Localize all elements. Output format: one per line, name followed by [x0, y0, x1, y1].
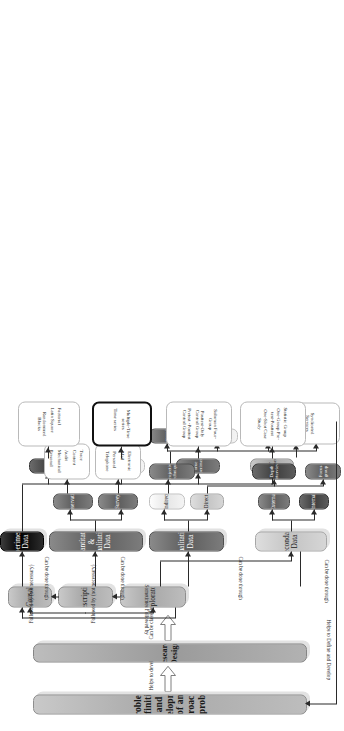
node-secondary-data: Secondary Data — [255, 531, 327, 551]
node-descriptive: Descriptive — [58, 586, 113, 607]
leaf-line: One-Shot Case Study — [257, 407, 268, 440]
node-depth-interview: Depth Interview — [252, 463, 296, 479]
node-research-design: Research Design — [33, 643, 307, 662]
leaf-line: Trace — [79, 450, 84, 461]
node-external-label: External — [271, 493, 277, 509]
leaf-statistical-designs: Factorial Latin Square Randomized Blocks — [18, 401, 80, 446]
node-experimental-data: Experimental Data — [0, 531, 44, 551]
label-sometimes-followed-by: Sometimes Followed by — [144, 584, 150, 634]
leaf-line: Pretest -Posttest Control Group — [181, 407, 192, 440]
node-depth-interview-label: Depth Interview — [269, 463, 280, 479]
leaf-line: Latin Square — [49, 407, 54, 432]
node-indirect-label: Indirect — [164, 493, 170, 509]
label-helps-to-define-and-develop: Helps to Define and Develop — [326, 619, 332, 680]
leaf-line: Statistic Group — [283, 407, 288, 436]
node-exploratory-label: Exploratory — [149, 586, 157, 607]
leaf-pre-experimental-designs: Statistic Group One-Group Pre-test-Postt… — [240, 401, 306, 446]
leaf-line: Personal — [112, 451, 117, 468]
node-experimental-data-label: Experimental Data — [14, 531, 31, 551]
node-qualitative-data-label: Qualitative Data — [178, 531, 195, 551]
label-followed-by-2: Followed by (not necessary) — [28, 564, 34, 623]
leaf-line: Factorial — [56, 407, 61, 424]
leaf-line: Telephone — [104, 451, 109, 471]
leaf-line: Multiple-Time series — [120, 408, 131, 439]
label-can-be-done-through-3: Can be done through — [44, 556, 50, 599]
node-quant-qual-data-label: Quantitative & Qualitative Data — [79, 531, 112, 551]
label-can-be-done-through-2: Can be done through — [120, 556, 126, 599]
node-internal-label: Internal — [311, 493, 317, 509]
arrow-helps-to-develop — [160, 665, 176, 691]
node-research-design-label: Research Design — [160, 643, 179, 662]
node-descriptive-label: Descriptive — [81, 586, 89, 607]
leaf-line: One-Group Pre-test-Posttest — [270, 407, 281, 440]
node-internal: Internal — [299, 493, 329, 509]
node-direct-label: Direct — [204, 494, 210, 507]
node-observation: Observation — [53, 493, 93, 509]
leaf-quasi-experimental-designs: Multiple-Time series Time series — [92, 401, 152, 446]
node-indirect: Indirect — [149, 493, 185, 509]
node-problem-definition: Problem Definition and Development of an… — [33, 694, 307, 714]
node-observation-label: Observation — [70, 493, 76, 509]
leaf-line: Posttest-Only Control Group — [194, 407, 205, 440]
leaf-line: Electronic — [126, 451, 131, 471]
node-survey: Survey — [98, 493, 138, 509]
node-direct: Direct — [190, 493, 224, 509]
leaf-line: Audit — [64, 450, 69, 461]
leaf-line: Randomized Blocks — [36, 407, 47, 440]
node-projective-techniques-label: Projective Techniques — [167, 463, 178, 479]
leaf-line: Mechanical — [57, 450, 62, 473]
leaf-line: Solomon Four-Group — [206, 407, 217, 440]
label-can-be-done-through-1: Can be done through — [238, 556, 244, 599]
leaf-line: Time series — [113, 408, 118, 431]
node-qualitative-data: Qualitative Data — [149, 531, 224, 551]
node-secondary-data-label: Secondary Data — [283, 531, 300, 551]
node-exploratory: Exploratory — [120, 586, 186, 607]
node-problem-definition-label: Problem Definition and Development of an… — [133, 694, 207, 714]
node-projective-techniques: Projective Techniques — [149, 463, 195, 479]
leaf-line: Content — [72, 450, 77, 466]
leaf-true-experimental-designs: Solomon Four-Group Posttest-Only Control… — [166, 401, 232, 446]
node-external: External — [258, 493, 290, 509]
node-focus-group-label: Focus group — [318, 465, 329, 477]
label-can-be-done-through-4: Can be done through — [324, 559, 330, 602]
node-quant-qual-data: Quantitative & Qualitative Data — [49, 531, 143, 551]
flowchart-canvas: Problem Definition and Development of an… — [0, 0, 344, 731]
node-survey-label: Survey — [115, 493, 121, 508]
